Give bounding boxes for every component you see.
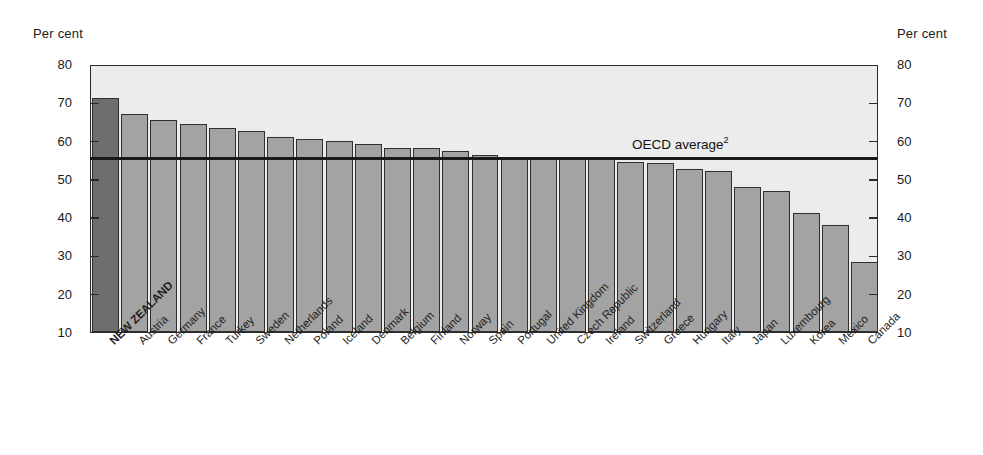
- y-tick-label-left-30: 30: [58, 249, 72, 262]
- y-tick-label-right-80: 80: [897, 58, 911, 71]
- bar-japan: [734, 187, 761, 332]
- y-tick-label-left-60: 60: [58, 135, 72, 148]
- bar-united-kingdom: [530, 157, 557, 332]
- bar-belgium: [384, 148, 411, 332]
- bar-sweden: [238, 131, 265, 332]
- axis-unit-label-left: Per cent: [33, 26, 83, 41]
- y-tick-label-right-40: 40: [897, 211, 911, 224]
- y-tick-mark-right-20: [869, 294, 878, 296]
- oecd-average-footnote: 2: [724, 135, 729, 145]
- bar-netherlands: [267, 137, 294, 332]
- y-tick-label-left-40: 40: [58, 211, 72, 224]
- y-tick-label-left-50: 50: [58, 173, 72, 186]
- bar-france: [180, 124, 207, 332]
- y-tick-mark-left-40: [90, 217, 99, 219]
- y-tick-label-left-80: 80: [58, 58, 72, 71]
- bar-finland: [413, 148, 440, 332]
- y-tick-mark-right-50: [869, 179, 878, 181]
- y-tick-mark-right-70: [869, 103, 878, 105]
- bar-spain: [472, 155, 499, 332]
- oecd-average-text: OECD average: [632, 137, 724, 152]
- bar-italy: [705, 171, 732, 332]
- axis-unit-label-right: Per cent: [897, 26, 947, 41]
- y-tick-mark-left-70: [90, 103, 99, 105]
- y-tick-label-left-70: 70: [58, 96, 72, 109]
- y-tick-mark-right-60: [869, 141, 878, 143]
- bar-new-zealand: [92, 98, 119, 332]
- plot-area: [90, 65, 878, 333]
- y-tick-label-right-20: 20: [897, 288, 911, 301]
- y-tick-label-right-70: 70: [897, 96, 911, 109]
- y-tick-label-right-60: 60: [897, 135, 911, 148]
- bar-denmark: [355, 144, 382, 332]
- y-tick-mark-left-50: [90, 179, 99, 181]
- bar-austria: [121, 114, 148, 332]
- chart-container: Per cent Per cent 8080707060605050404030…: [0, 0, 983, 455]
- oecd-average-line: [90, 157, 878, 160]
- y-tick-label-left-20: 20: [58, 288, 72, 301]
- y-tick-mark-left-30: [90, 256, 99, 258]
- bar-norway: [442, 151, 469, 332]
- y-tick-label-right-30: 30: [897, 249, 911, 262]
- bar-luxembourg: [763, 191, 790, 332]
- bar-mexico: [822, 225, 849, 332]
- y-tick-mark-right-40: [869, 217, 878, 219]
- y-tick-label-right-50: 50: [897, 173, 911, 186]
- bar-portugal: [501, 157, 528, 332]
- oecd-average-label: OECD average2: [632, 135, 729, 152]
- y-tick-mark-left-20: [90, 294, 99, 296]
- y-tick-mark-right-30: [869, 256, 878, 258]
- category-labels: NEW ZEALANDAustriaGermanyFranceTurkeySwe…: [0, 333, 983, 455]
- y-tick-mark-left-60: [90, 141, 99, 143]
